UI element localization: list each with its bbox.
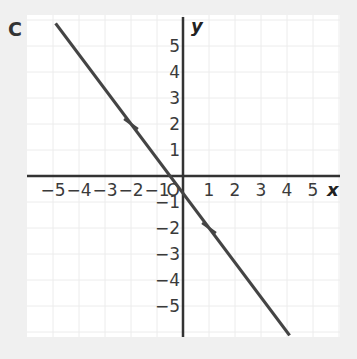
y-tick-label: −4: [155, 270, 180, 290]
y-tick-label: 1: [169, 140, 180, 160]
x-axis-label: x: [326, 179, 340, 200]
x-tick-label: 1: [204, 180, 215, 200]
x-tick-label: −3: [92, 180, 117, 200]
x-tick-label: −5: [40, 180, 65, 200]
chart: −5−4−3−2−11234554321−1−2−3−4−5Oxy: [0, 0, 357, 359]
x-tick-label: 3: [256, 180, 267, 200]
x-tick-label: 5: [308, 180, 319, 200]
y-tick-label: 3: [169, 88, 180, 108]
x-tick-label: 4: [282, 180, 293, 200]
origin-label: O: [167, 180, 180, 200]
y-tick-label: −5: [155, 296, 180, 316]
y-tick-label: −2: [155, 218, 180, 238]
x-tick-label: −2: [118, 180, 143, 200]
y-axis-label: y: [191, 15, 204, 36]
y-tick-label: 2: [169, 114, 180, 134]
y-tick-label: 5: [169, 36, 180, 56]
x-tick-label: −4: [66, 180, 91, 200]
y-tick-label: −3: [155, 244, 180, 264]
x-tick-label: 2: [230, 180, 241, 200]
y-tick-label: 4: [169, 62, 180, 82]
